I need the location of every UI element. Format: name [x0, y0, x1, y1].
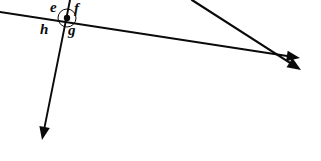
diagonal-line	[192, 0, 293, 65]
angle-label-f: f	[74, 1, 79, 16]
vertex-dot	[64, 15, 70, 21]
angle-label-e: e	[50, 0, 57, 15]
angle-label-g: g	[68, 23, 76, 38]
geometry-diagram: e f h g	[0, 0, 321, 161]
angle-label-h: h	[40, 22, 48, 37]
steep-arrowhead	[39, 126, 49, 140]
